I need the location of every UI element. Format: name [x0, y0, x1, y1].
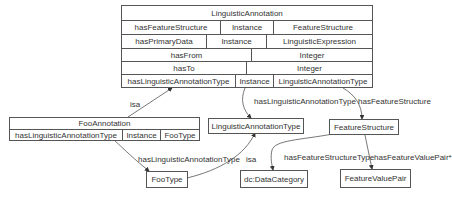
property-kind: Instance: [206, 35, 266, 48]
property-range: Integer: [246, 62, 372, 74]
property-kind: Instance: [235, 75, 273, 88]
property-range: Integer: [251, 49, 372, 61]
edge-label-has-feature-value-pair: hasFeatureValuePair*: [374, 153, 452, 162]
property-row: hasPrimaryData Instance LinguisticExpres…: [122, 34, 372, 48]
edge-has-linguistic-annotation-type: [243, 88, 251, 118]
property-row: hasLinguisticAnnotationType Instance Foo…: [10, 129, 199, 141]
property-row: hasFeatureStructure Instance FeatureStru…: [122, 20, 372, 34]
property-name: hasLinguisticAnnotationType: [122, 75, 235, 88]
edge-label-has-feature-structure-type: hasFeatureStructureType: [284, 153, 374, 162]
property-kind: Instance: [220, 21, 273, 34]
foo-annotation-class[interactable]: FooAnnotation hasLinguisticAnnotationTyp…: [9, 117, 200, 141]
edge-label-has-linguistic-annotation-type: hasLinguisticAnnotationType: [254, 97, 356, 106]
edge-label-foo-has-linguistic-annotation-type: hasLinguisticAnnotationType: [138, 155, 240, 164]
linguistic-annotation-type-node[interactable]: LinguisticAnnotationType: [208, 118, 304, 134]
class-title-row: FooAnnotation: [10, 118, 199, 129]
property-row: hasTo Integer: [122, 61, 372, 74]
edge-label-has-feature-structure: hasFeatureStructure: [358, 97, 431, 106]
feature-value-pair-node[interactable]: FeatureValuePair: [340, 169, 411, 188]
property-range: FooType: [160, 130, 199, 141]
property-name: hasFeatureStructure: [122, 21, 220, 34]
class-title: LinguisticAnnotation: [122, 6, 372, 20]
class-title-row: LinguisticAnnotation: [122, 6, 372, 20]
data-category-node[interactable]: dc:DataCategory: [240, 170, 308, 188]
foo-type-node[interactable]: FooType: [146, 171, 188, 188]
feature-structure-node[interactable]: FeatureStructure: [329, 119, 399, 135]
property-range: LinguisticAnnotationType: [273, 75, 372, 88]
edge-has-feature-value-pair: [365, 135, 372, 169]
property-row: hasFrom Integer: [122, 48, 372, 61]
edge-has-feature-structure-type: [271, 134, 333, 170]
class-title: FooAnnotation: [10, 118, 199, 129]
property-row: hasLinguisticAnnotationType Instance Lin…: [122, 74, 372, 88]
property-name: hasFrom: [122, 49, 251, 61]
linguistic-annotation-class[interactable]: LinguisticAnnotation hasFeatureStructure…: [121, 5, 373, 88]
property-name: hasTo: [122, 62, 246, 74]
edge-label-isa: isa: [130, 100, 140, 109]
property-name: hasLinguisticAnnotationType: [10, 130, 122, 141]
edge-label-isa-foo-type: isa: [246, 155, 256, 164]
property-range: LinguisticExpression: [266, 35, 372, 48]
property-range: FeatureStructure: [273, 21, 372, 34]
property-name: hasPrimaryData: [122, 35, 206, 48]
property-kind: Instance: [122, 130, 160, 141]
